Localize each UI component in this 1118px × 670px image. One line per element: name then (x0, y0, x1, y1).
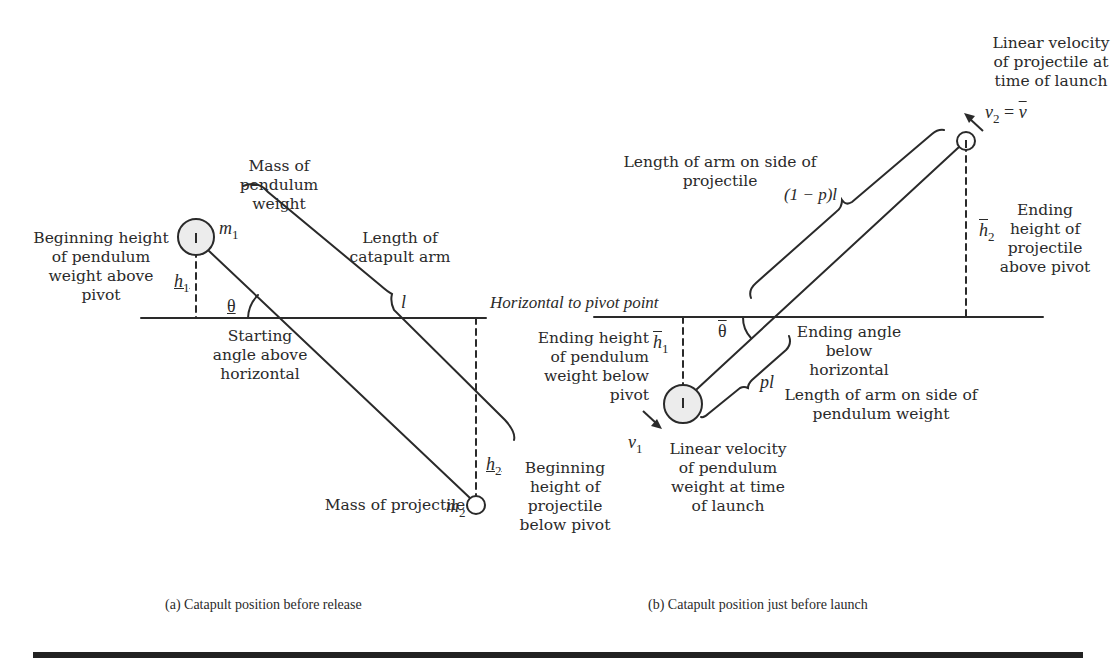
label-ending-height-pendulum: Ending height of pendulum weight below p… (519, 329, 649, 405)
symbol-m2: m2 (446, 496, 466, 521)
label-horizontal-pivot: Horizontal to pivot point (490, 293, 659, 313)
catapult-diagram: Mass of pendulum weight Beginning height… (0, 0, 1118, 670)
label-linear-velocity-pendulum: Linear velocity of pendulum weight at ti… (660, 440, 796, 516)
symbol-l: l (401, 292, 406, 313)
label-length-catapult-arm: Length of catapult arm (338, 229, 462, 267)
symbol-h1bar: h1 (653, 332, 669, 357)
symbol-v1: v1 (628, 432, 643, 457)
caption-panel-b: (b) Catapult position just before launch (648, 597, 868, 613)
symbol-theta-bar: θ (718, 321, 727, 342)
bottom-rule (33, 652, 1083, 658)
theta-bar-arc (743, 317, 751, 338)
label-mass-pendulum: Mass of pendulum weight (224, 157, 334, 214)
symbol-h2bar: h2 (979, 220, 995, 245)
velocity-arrow-v2 (964, 113, 983, 131)
theta-arc-a (248, 295, 258, 318)
symbol-theta: θ (227, 296, 236, 317)
label-beginning-height-pendulum: Beginning height of pendulum weight abov… (28, 229, 174, 305)
label-linear-velocity-projectile: Linear velocity of projectile at time of… (985, 34, 1117, 91)
caption-panel-a: (a) Catapult position before release (165, 597, 362, 613)
symbol-h1: h1 (174, 271, 190, 296)
label-length-arm-pendulum: Length of arm on side of pendulum weight (776, 386, 986, 424)
label-ending-angle: Ending angle below horizontal (790, 323, 908, 380)
label-ending-height-projectile: Ending height of projectile above pivot (990, 201, 1100, 277)
symbol-one-minus-p-l: (1 − p)l (784, 185, 837, 205)
label-starting-angle: Starting angle above horizontal (198, 327, 322, 384)
symbol-h2: h2 (486, 454, 502, 479)
length-brace-a (243, 184, 514, 440)
symbol-pl: pl (760, 372, 774, 393)
label-beginning-height-projectile: Beginning height of projectile below piv… (510, 459, 620, 535)
symbol-m1: m1 (219, 218, 239, 243)
symbol-v2-equals-vbar: v2 = v (985, 102, 1027, 127)
velocity-arrow-v1 (643, 411, 662, 429)
